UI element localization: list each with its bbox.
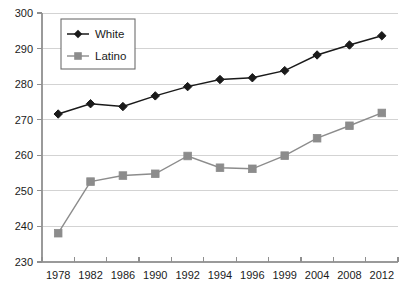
data-point-marker — [378, 32, 386, 40]
data-point-marker — [248, 74, 256, 82]
x-tick-label: 1996 — [240, 269, 264, 281]
data-point-marker — [54, 229, 62, 237]
x-tick-label: 1982 — [78, 269, 102, 281]
x-tick-label: 1999 — [272, 269, 296, 281]
legend-marker — [74, 52, 82, 60]
legend-label: Latino — [95, 50, 126, 62]
data-point-marker — [345, 41, 353, 49]
y-tick-label: 300 — [15, 7, 33, 19]
y-tick-labels: 230240250260270280290300 — [15, 7, 33, 268]
data-point-marker — [184, 152, 192, 160]
x-axis — [42, 257, 398, 262]
x-tick-label: 1992 — [175, 269, 199, 281]
x-tick-label: 1994 — [208, 269, 232, 281]
data-point-marker — [313, 51, 321, 59]
x-tick-label: 1978 — [46, 269, 70, 281]
x-tick-label: 1990 — [143, 269, 167, 281]
data-point-marker — [216, 164, 224, 172]
x-tick-label: 2012 — [370, 269, 394, 281]
data-point-marker — [87, 178, 95, 186]
data-point-marker — [54, 110, 62, 118]
data-point-marker — [313, 134, 321, 142]
data-point-marker — [378, 109, 386, 117]
x-tick-labels: 1978198219861990199219941996199920042008… — [46, 269, 394, 281]
y-tick-label: 260 — [15, 149, 33, 161]
y-tick-label: 230 — [15, 256, 33, 268]
data-point-marker — [281, 66, 289, 74]
series-line — [58, 113, 382, 233]
y-tick-label: 240 — [15, 220, 33, 232]
data-point-marker — [151, 170, 159, 178]
chart-canvas: 230240250260270280290300 197819821986199… — [0, 0, 410, 293]
line-chart: 230240250260270280290300 197819821986199… — [0, 0, 410, 293]
x-tick-label: 2004 — [305, 269, 329, 281]
y-tick-label: 270 — [15, 114, 33, 126]
data-point-marker — [281, 152, 289, 160]
data-point-marker — [119, 172, 127, 180]
series-latino — [54, 109, 385, 237]
y-tick-label: 250 — [15, 185, 33, 197]
data-point-marker — [216, 75, 224, 83]
legend-label: White — [95, 28, 124, 40]
chart-legend: WhiteLatino — [61, 19, 135, 69]
data-point-marker — [86, 100, 94, 108]
y-axis — [37, 13, 42, 262]
y-tick-label: 290 — [15, 43, 33, 55]
x-tick-label: 2008 — [337, 269, 361, 281]
y-tick-label: 280 — [15, 78, 33, 90]
data-point-marker — [346, 122, 354, 130]
data-point-marker — [249, 165, 257, 173]
data-point-marker — [151, 92, 159, 100]
x-tick-label: 1986 — [111, 269, 135, 281]
data-point-marker — [119, 102, 127, 110]
